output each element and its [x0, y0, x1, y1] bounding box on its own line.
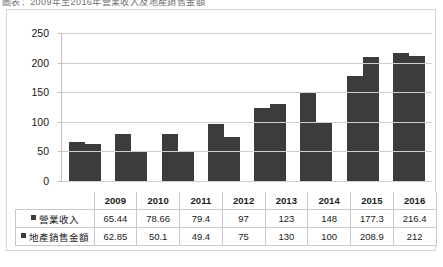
bar-group-2009 — [62, 33, 108, 181]
chart-screenshot: 圖表：2009年至2016年營業收入及地產銷售金額 05010015020025… — [0, 0, 443, 267]
bar — [254, 108, 270, 181]
gridline — [62, 151, 432, 152]
chart-frame: 050100150200250 200920102011201220132014… — [6, 9, 436, 251]
table-value-cell: 177.3 — [351, 210, 394, 228]
y-tick-label: 100 — [31, 117, 49, 128]
table-value-cell: 148 — [308, 210, 351, 228]
table-value-cell: 50.1 — [137, 228, 180, 246]
plot-area — [61, 33, 431, 181]
bar — [300, 93, 316, 181]
data-table-body: 20092010201120122013201420152016營業收入65.4… — [16, 192, 437, 246]
table-year-header: 2011 — [180, 192, 223, 210]
bar — [363, 57, 379, 181]
table-value-cell: 212 — [393, 228, 436, 246]
table-value-cell: 216.4 — [393, 210, 436, 228]
bar — [131, 151, 147, 181]
table-year-header: 2013 — [265, 192, 308, 210]
series-name: 營業收入 — [39, 214, 79, 225]
table-year-header: 2010 — [137, 192, 180, 210]
table-value-cell: 62.85 — [94, 228, 137, 246]
y-tick-mark — [58, 181, 62, 182]
bar — [270, 104, 286, 181]
bar-group-2010 — [108, 33, 154, 181]
gridline — [62, 92, 432, 93]
y-tick-mark — [58, 122, 62, 123]
data-table: 20092010201120122013201420152016營業收入65.4… — [15, 192, 437, 246]
data-table-region: 20092010201120122013201420152016營業收入65.4… — [7, 192, 435, 250]
bar — [178, 152, 194, 181]
table-value-cell: 78.66 — [137, 210, 180, 228]
plot-region: 050100150200250 — [7, 10, 435, 192]
y-tick-label: 50 — [37, 146, 49, 157]
table-year-header: 2015 — [351, 192, 394, 210]
caption-strip: 圖表：2009年至2016年營業收入及地產銷售金額 — [0, 0, 443, 7]
bar-group-2013 — [247, 33, 293, 181]
bar — [162, 134, 178, 181]
table-value-cell: 123 — [265, 210, 308, 228]
legend-swatch-icon — [31, 215, 36, 220]
table-header-row: 20092010201120122013201420152016 — [16, 192, 437, 210]
y-tick-label: 200 — [31, 57, 49, 68]
table-value-cell: 49.4 — [180, 228, 223, 246]
y-tick-mark — [58, 33, 62, 34]
bar — [69, 142, 85, 181]
bar-group-2012 — [201, 33, 247, 181]
gridline — [62, 33, 432, 34]
table-value-cell: 208.9 — [351, 228, 394, 246]
bar-group-2011 — [155, 33, 201, 181]
series-legend-label: 地產銷售金額 — [16, 228, 95, 246]
bar — [85, 144, 101, 181]
bar-group-2014 — [293, 33, 339, 181]
table-year-header: 2009 — [94, 192, 137, 210]
table-value-cell: 130 — [265, 228, 308, 246]
caption-text: 圖表：2009年至2016年營業收入及地產銷售金額 — [2, 0, 205, 7]
table-value-cell: 97 — [222, 210, 265, 228]
series-legend-label: 營業收入 — [16, 210, 95, 228]
table-year-header: 2014 — [308, 192, 351, 210]
table-year-header: 2012 — [222, 192, 265, 210]
y-axis: 050100150200250 — [7, 33, 53, 181]
table-corner-cell — [16, 192, 95, 210]
bar-group-2016 — [386, 33, 432, 181]
gridline — [62, 181, 432, 182]
series-name: 地產銷售金額 — [29, 232, 89, 243]
y-tick-label: 250 — [31, 28, 49, 39]
y-tick-mark — [58, 92, 62, 93]
gridline — [62, 63, 432, 64]
gridline — [62, 122, 432, 123]
bar-group-2015 — [340, 33, 386, 181]
table-value-cell: 100 — [308, 228, 351, 246]
y-tick-label: 0 — [43, 176, 49, 187]
table-value-cell: 75 — [222, 228, 265, 246]
bar — [393, 53, 409, 181]
table-value-cell: 79.4 — [180, 210, 223, 228]
bar — [224, 137, 240, 181]
bars-layer — [62, 33, 432, 181]
table-row: 地產銷售金額62.8550.149.475130100208.9212 — [16, 228, 437, 246]
y-tick-label: 150 — [31, 87, 49, 98]
y-tick-mark — [58, 151, 62, 152]
legend-swatch-icon — [21, 233, 26, 238]
y-tick-mark — [58, 63, 62, 64]
bar — [115, 134, 131, 181]
table-value-cell: 65.44 — [94, 210, 137, 228]
bar — [409, 56, 425, 182]
table-year-header: 2016 — [393, 192, 436, 210]
table-row: 營業收入65.4478.6679.497123148177.3216.4 — [16, 210, 437, 228]
